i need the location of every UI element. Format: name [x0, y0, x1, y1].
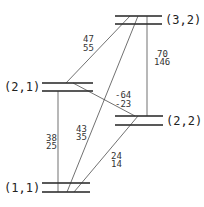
- value-bottom: 35: [76, 132, 87, 142]
- transition-3-2-to-2-1: 47 55: [66, 16, 130, 83]
- value-bottom: -23: [115, 99, 131, 109]
- level-label-3-2: (3,2): [165, 13, 201, 27]
- value-bottom: 146: [154, 57, 170, 67]
- value-bottom: 25: [46, 141, 57, 151]
- level-2-1: (2,1): [4, 80, 93, 94]
- transition-3-2-to-2-2: 70 146: [147, 16, 170, 116]
- energy-level-diagram: (3,2) (2,1) (2,2) (1,1) 47 55 70 146 -64…: [0, 0, 204, 207]
- value-bottom: 55: [83, 43, 94, 53]
- level-label-2-2: (2,2): [166, 114, 202, 128]
- level-2-2: (2,2): [115, 114, 202, 128]
- level-label-1-1: (1,1): [4, 181, 40, 195]
- level-label-2-1: (2,1): [4, 80, 40, 94]
- transition-2-1-to-1-1: 38 25: [46, 91, 58, 192]
- value-bottom: 14: [111, 159, 122, 169]
- level-3-2: (3,2): [115, 13, 201, 27]
